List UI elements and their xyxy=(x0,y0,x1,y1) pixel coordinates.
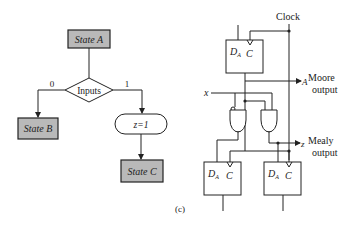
and-gate-2 xyxy=(261,110,277,132)
asm-chart: State A Inputs 0 1 State B z=1 State C xyxy=(18,30,167,182)
moore-signal-label: A xyxy=(301,77,308,87)
branch-0-arrow xyxy=(38,90,65,117)
and-gate-1 xyxy=(230,110,246,132)
a-to-and2-line xyxy=(245,101,265,110)
state-a-label: State A xyxy=(75,34,104,45)
mealy-label-line1: Mealy xyxy=(308,135,334,146)
bl-ff-c-label: C xyxy=(226,170,233,181)
br-ff-c-label: C xyxy=(285,170,292,181)
top-ff-c-label: C xyxy=(246,48,253,59)
and1-to-ff-d xyxy=(217,131,238,162)
state-c-label: State C xyxy=(127,166,156,177)
decision-label: Inputs xyxy=(77,86,101,96)
moore-label-line1: Moore xyxy=(308,72,335,83)
diagram-canvas: State A Inputs 0 1 State B z=1 State C C… xyxy=(0,0,350,233)
clock-to-top-ff xyxy=(250,31,289,40)
clock-label: Clock xyxy=(276,11,300,22)
moore-label-line2: output xyxy=(312,84,338,95)
junction-dot xyxy=(243,99,246,102)
and2-output-line xyxy=(269,131,300,143)
x-input-line xyxy=(211,93,235,107)
junction-dot xyxy=(287,29,290,32)
mealy-label-line2: output xyxy=(312,147,338,158)
branch-1-label: 1 xyxy=(125,79,130,89)
branch-1-arrow xyxy=(113,90,142,113)
circuit: Clock DA C A Moore output x xyxy=(203,11,338,211)
mealy-signal-label: z xyxy=(300,139,305,149)
branch-0-label: 0 xyxy=(50,79,55,89)
x-input-label: x xyxy=(203,87,209,98)
conditional-output-label: z=1 xyxy=(133,120,149,130)
figure-caption: (c) xyxy=(175,204,185,214)
state-b-label: State B xyxy=(24,123,53,134)
clock-to-bottom-left-ff xyxy=(230,151,289,162)
